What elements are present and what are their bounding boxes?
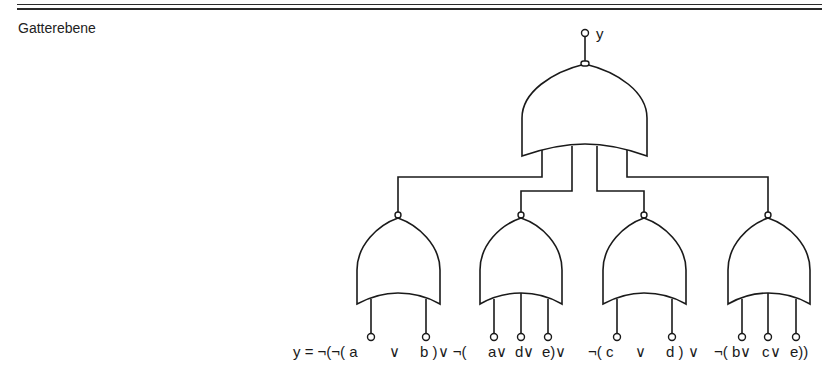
formula-part: ∨ bbox=[635, 343, 646, 360]
formula-part: d∨ bbox=[515, 343, 534, 360]
formula-part: ¬( c bbox=[588, 343, 614, 360]
formula-part: ∨ bbox=[389, 343, 400, 360]
interconnect-wires bbox=[398, 146, 768, 212]
formula-part: a∨ bbox=[488, 343, 507, 360]
formula-part: b )∨ ¬( bbox=[420, 343, 466, 360]
formula-part: ¬( b∨ bbox=[714, 343, 751, 360]
formula-part: e)) bbox=[790, 343, 808, 360]
gate-diagram: y bbox=[0, 0, 822, 381]
formula-part: c∨ bbox=[762, 343, 781, 360]
formula-part: y = ¬(¬( a bbox=[293, 343, 358, 360]
boolean-formula: y = ¬(¬( a ∨ b )∨ ¬( a∨ d∨ e)∨ ¬( c ∨ d … bbox=[293, 343, 808, 360]
gate-4 bbox=[728, 212, 810, 341]
formula-part: d ) ∨ bbox=[666, 343, 699, 360]
top-gate bbox=[522, 61, 647, 156]
output-terminal: y bbox=[582, 25, 605, 61]
gate-3 bbox=[603, 212, 686, 341]
gate-1 bbox=[357, 212, 440, 341]
formula-part: e)∨ bbox=[542, 343, 566, 360]
output-label: y bbox=[596, 25, 604, 42]
gate-2 bbox=[480, 212, 562, 341]
